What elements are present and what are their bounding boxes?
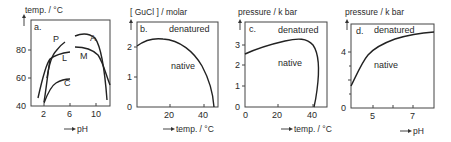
panel-c-xlabel: temp. / °C <box>294 124 332 134</box>
curve-label-C: C <box>64 78 71 88</box>
ytick: 80 <box>16 45 26 55</box>
ytick: 2 <box>235 60 240 70</box>
ytick: 2 <box>127 42 132 52</box>
arrow-right-icon <box>72 127 76 131</box>
region-denatured: denatured <box>278 25 319 35</box>
curve-label-P: P <box>53 34 59 44</box>
phase-boundary <box>137 39 214 107</box>
curve-label-A: A <box>90 33 96 43</box>
xtick: 20 <box>164 110 174 120</box>
ytick: 40 <box>16 101 26 111</box>
panel-d-ylabel: pressure / k bar <box>345 7 404 17</box>
curve-label-L: L <box>62 53 67 63</box>
curve-A <box>75 34 107 100</box>
arrow-up-icon <box>129 19 133 23</box>
panel-c-label: c. <box>249 24 256 34</box>
arrow-right-icon <box>408 129 412 133</box>
panel-a: temp. / °C a. 80 60 40 2 6 10 pH P L C A… <box>16 5 110 134</box>
panel-c: pressure / k bar c. denatured native 3 2… <box>235 7 332 134</box>
ytick: 60 <box>16 73 26 83</box>
xtick: 2 <box>41 109 46 119</box>
ytick: 4 <box>341 47 346 57</box>
arrow-up-icon <box>345 19 349 23</box>
xtick: 20 <box>272 110 282 120</box>
panel-a-ylabel: temp. / °C <box>25 5 63 15</box>
phase-diagram-figure: temp. / °C a. 80 60 40 2 6 10 pH P L C A… <box>0 0 451 142</box>
arrow-up-icon <box>238 19 242 23</box>
phase-boundary <box>351 32 434 86</box>
ytick: 1 <box>235 81 240 91</box>
xtick: 6 <box>67 109 72 119</box>
panel-c-ylabel: pressure / k bar <box>238 7 297 17</box>
xtick: 10 <box>91 109 101 119</box>
panel-b-label: b. <box>140 24 148 34</box>
ytick: 0 <box>127 102 132 112</box>
xtick: 0 <box>243 110 248 120</box>
ytick: 0 <box>235 102 240 112</box>
panel-a-label: a. <box>34 22 42 32</box>
xtick: 40 <box>307 110 317 120</box>
xtick: 5 <box>370 111 375 121</box>
region-denatured: denatured <box>169 24 210 34</box>
panel-b-ylabel: [ GuCl ] / molar <box>130 7 187 17</box>
ytick: 0 <box>341 103 346 113</box>
region-native: native <box>374 60 398 70</box>
arrow-right-icon <box>289 127 293 131</box>
panel-a-frame <box>31 20 110 106</box>
panel-b: [ GuCl ] / molar b. denatured native 2 1… <box>127 7 218 134</box>
phase-boundary <box>245 39 318 107</box>
region-native: native <box>278 58 302 68</box>
curve-label-M: M <box>80 51 88 61</box>
region-native: native <box>171 61 195 71</box>
panel-a-xlabel: pH <box>77 124 88 134</box>
ytick: 3 <box>235 40 240 50</box>
ytick: 1 <box>127 72 132 82</box>
panel-d: pressure / k bar d. denatured native 4 0… <box>341 7 434 136</box>
xtick: 7 <box>410 111 415 121</box>
xtick: 40 <box>198 110 208 120</box>
panel-b-xlabel: temp. / °C <box>176 124 214 134</box>
panel-d-xlabel: pH <box>413 126 424 136</box>
arrow-right-icon <box>171 127 175 131</box>
panel-d-label: d. <box>356 26 364 36</box>
region-denatured: denatured <box>374 25 415 35</box>
